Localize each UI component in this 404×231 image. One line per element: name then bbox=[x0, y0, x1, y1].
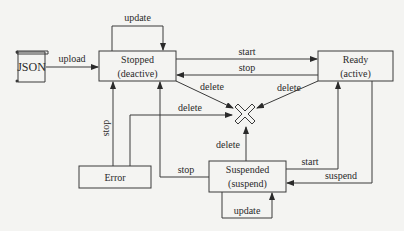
stopped-update-loop bbox=[112, 26, 163, 51]
delete-from-ready-label: delete bbox=[277, 82, 301, 93]
ready-title: Ready bbox=[343, 54, 369, 65]
stop-from-suspended-edge bbox=[160, 82, 209, 177]
suspend-label: suspend bbox=[325, 170, 357, 181]
x-cross-icon bbox=[235, 104, 255, 124]
stopped-subtitle: (deactive) bbox=[118, 68, 158, 80]
state-diagram: JSON upload Stopped (deactive) update Re… bbox=[0, 0, 404, 231]
suspended-title: Suspended bbox=[226, 164, 269, 175]
error-title: Error bbox=[104, 172, 126, 183]
ready-state-node: Ready (active) bbox=[318, 51, 393, 81]
delete-from-suspended-label: delete bbox=[216, 139, 240, 150]
json-label: JSON bbox=[17, 60, 46, 74]
delete-from-error-label: delete bbox=[178, 102, 202, 113]
json-document-node: JSON bbox=[16, 51, 49, 83]
delete-from-stopped-label: delete bbox=[200, 81, 224, 92]
start-label: start bbox=[238, 46, 255, 57]
suspended-subtitle: (suspend) bbox=[228, 178, 267, 190]
stopped-title: Stopped bbox=[121, 54, 154, 65]
suspend-edge bbox=[287, 81, 372, 183]
upload-label: upload bbox=[58, 53, 85, 64]
error-state-node: Error bbox=[79, 166, 151, 188]
stopped-update-label: update bbox=[124, 12, 151, 23]
stop-from-suspended-label: stop bbox=[178, 164, 195, 175]
stop-label: stop bbox=[239, 62, 256, 73]
suspended-update-label: update bbox=[234, 205, 261, 216]
ready-subtitle: (active) bbox=[340, 68, 371, 80]
suspended-state-node: Suspended (suspend) bbox=[209, 161, 286, 192]
start-from-suspended-label: start bbox=[301, 156, 318, 167]
stopped-state-node: Stopped (deactive) bbox=[99, 51, 176, 81]
stop-from-error-label: stop bbox=[100, 120, 111, 137]
